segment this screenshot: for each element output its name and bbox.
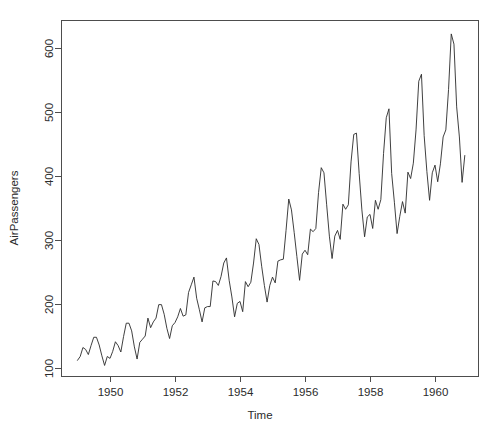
x-tick-label: 1960 [423,386,449,398]
y-tick-label: 600 [43,39,55,58]
x-tick-label: 1954 [228,386,254,398]
x-axis-title: Time [247,409,272,421]
y-tick-label: 300 [43,231,55,250]
y-tick-label: 400 [43,167,55,186]
chart-canvas: 195019521954195619581960 100200300400500… [0,0,499,433]
x-tick-label: 1950 [98,386,124,398]
airpassengers-line-chart: 195019521954195619581960 100200300400500… [0,0,499,433]
x-tick-label: 1956 [293,386,319,398]
y-axis-title: AirPassengers [8,170,20,245]
chart-background [0,0,499,433]
y-tick-label: 100 [43,359,55,378]
x-tick-label: 1958 [358,386,384,398]
y-tick-label: 500 [43,103,55,122]
y-tick-label: 200 [43,295,55,314]
x-tick-label: 1952 [163,386,189,398]
